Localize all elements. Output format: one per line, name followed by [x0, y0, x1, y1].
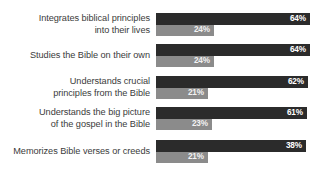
chart-row: Integrates biblical principles into thei… [0, 13, 321, 36]
bar-group: 64% 24% [154, 44, 321, 67]
category-label: Studies the Bible on their own [0, 50, 154, 61]
chart-row: Understands crucial principles from the … [0, 76, 321, 99]
category-label: Understands crucial principles from the … [0, 76, 154, 98]
bar-primary[interactable]: 62% [156, 76, 308, 88]
bar-primary-value: 38% [286, 142, 302, 150]
bar-primary-value: 64% [290, 15, 306, 23]
bar-primary[interactable]: 64% [156, 13, 310, 25]
bar-secondary-value: 21% [188, 153, 204, 161]
bar-secondary[interactable]: 21% [156, 88, 208, 99]
bar-secondary-value: 21% [188, 89, 204, 97]
bar-group: 38% 21% [154, 140, 321, 163]
chart-row: Studies the Bible on their own 64% 24% [0, 44, 321, 67]
bar-secondary[interactable]: 21% [156, 152, 208, 163]
category-label: Memorizes Bible verses or creeds [0, 146, 154, 157]
bar-group: 61% 23% [154, 107, 321, 130]
bar-group: 64% 24% [154, 13, 321, 36]
bar-primary[interactable]: 38% [156, 140, 306, 152]
category-label: Understands the big picture of the gospe… [0, 107, 154, 129]
bar-primary[interactable]: 64% [156, 44, 310, 56]
chart-row: Memorizes Bible verses or creeds 38% 21% [0, 140, 321, 163]
bar-group: 62% 21% [154, 76, 321, 99]
horizontal-bar-chart: Integrates biblical principles into thei… [0, 0, 321, 174]
category-label: Integrates biblical principles into thei… [0, 13, 154, 35]
bar-primary-value: 62% [288, 78, 304, 86]
bar-secondary-value: 24% [194, 26, 210, 34]
bar-secondary[interactable]: 24% [156, 56, 214, 67]
bar-primary[interactable]: 61% [156, 107, 307, 119]
chart-row: Understands the big picture of the gospe… [0, 107, 321, 130]
bar-primary-value: 64% [290, 46, 306, 54]
bar-primary-value: 61% [287, 109, 303, 117]
bar-secondary-value: 24% [194, 57, 210, 65]
bar-secondary-value: 23% [192, 120, 208, 128]
bar-secondary[interactable]: 24% [156, 25, 214, 36]
bar-secondary[interactable]: 23% [156, 119, 212, 130]
